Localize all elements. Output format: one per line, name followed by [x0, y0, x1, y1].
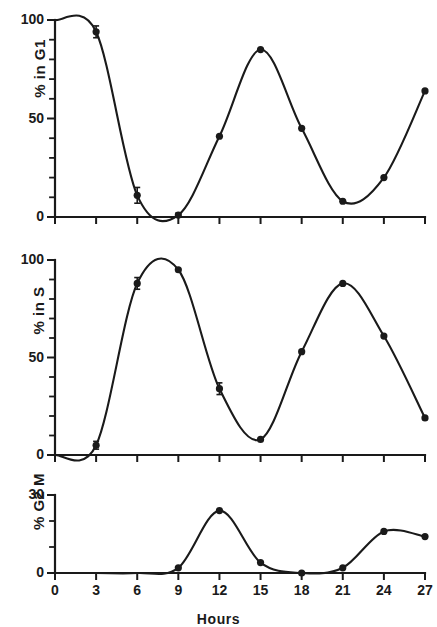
x-tick-label: 0: [35, 582, 75, 598]
data-point: [93, 442, 100, 449]
data-point: [257, 436, 264, 443]
y-tick-label: 100: [0, 11, 44, 27]
data-point: [339, 280, 346, 287]
data-point: [339, 198, 346, 205]
data-point: [421, 87, 428, 94]
x-tick-label: 18: [282, 582, 322, 598]
data-point: [421, 533, 428, 540]
x-tick-label: 9: [158, 582, 198, 598]
plot-g1: [0, 0, 437, 240]
panel-s: % in S 050100: [0, 240, 437, 475]
x-tick-label: 21: [323, 582, 363, 598]
data-curve: [55, 16, 425, 222]
data-point: [134, 280, 141, 287]
data-point: [216, 507, 223, 514]
data-point: [257, 46, 264, 53]
data-point: [175, 211, 182, 218]
panel-g1: % in G1 050100: [0, 0, 437, 240]
data-point: [298, 348, 305, 355]
y-tick-label: 50: [0, 110, 44, 126]
data-point: [421, 414, 428, 421]
x-tick-label: 15: [241, 582, 281, 598]
data-point: [339, 564, 346, 571]
y-axis-label-s: % in S: [30, 258, 47, 363]
x-tick-label: 27: [405, 582, 437, 598]
y-axis-label-g1: % in G1: [31, 14, 48, 124]
data-point: [380, 332, 387, 339]
x-tick-label: 6: [117, 582, 157, 598]
panel-g2m: % G2 M Hours 0300369121518212427: [0, 475, 437, 617]
data-curve: [55, 511, 425, 574]
x-tick-label: 3: [76, 582, 116, 598]
y-tick-label: 0: [0, 564, 44, 580]
data-point: [216, 133, 223, 140]
data-point: [380, 528, 387, 535]
x-axis-title: Hours: [0, 611, 437, 627]
y-tick-label: 50: [0, 349, 44, 365]
y-tick-label: 30: [0, 486, 44, 502]
x-tick-label: 24: [364, 582, 404, 598]
y-tick-label: 0: [0, 208, 44, 224]
data-curve: [55, 259, 425, 461]
y-tick-label: 100: [0, 251, 44, 267]
data-point: [134, 192, 141, 199]
plot-s: [0, 240, 437, 475]
data-point: [175, 564, 182, 571]
data-point: [298, 569, 305, 576]
data-point: [175, 266, 182, 273]
data-point: [216, 385, 223, 392]
x-tick-label: 12: [199, 582, 239, 598]
data-point: [380, 174, 387, 181]
data-point: [257, 559, 264, 566]
data-point: [93, 28, 100, 35]
data-point: [298, 125, 305, 132]
